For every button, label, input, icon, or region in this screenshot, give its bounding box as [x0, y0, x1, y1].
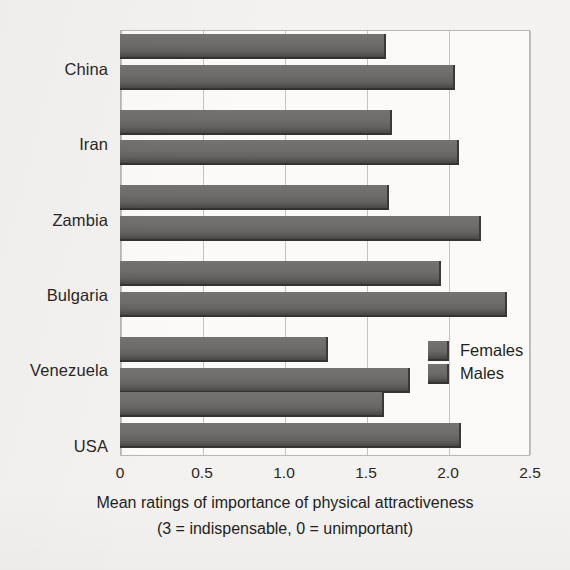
bar-iran-males [120, 140, 459, 165]
legend-label-females: Females [460, 341, 523, 360]
xtick-2-0: 2.0 [418, 464, 478, 482]
bar-venezuela-females [120, 337, 328, 362]
xtick-0-5: 0.5 [172, 464, 232, 482]
ylabel-usa: USA [74, 437, 108, 456]
bar-bulgaria-females [120, 261, 441, 286]
gridline-2-5 [530, 31, 531, 455]
legend: Females Males [428, 339, 523, 385]
bar-iran-females [120, 110, 392, 135]
ylabel-bulgaria: Bulgaria [47, 286, 108, 305]
xtick-0: 0 [90, 464, 150, 482]
legend-swatch-icon-females [428, 341, 449, 361]
bars-layer [120, 30, 530, 456]
legend-swatch-icon-males [428, 364, 449, 384]
bar-usa-males [120, 423, 461, 448]
legend-item-females: Females [428, 339, 523, 362]
bar-zambia-females [120, 185, 389, 210]
ylabel-iran: Iran [79, 135, 108, 154]
legend-label-males: Males [460, 364, 504, 383]
ylabel-china: China [64, 60, 108, 79]
bar-china-males [120, 65, 455, 90]
bar-bulgaria-males [120, 292, 507, 317]
xtick-1-0: 1.0 [254, 464, 314, 482]
x-axis-subtitle: (3 = indispensable, 0 = unimportant) [0, 520, 570, 538]
legend-item-males: Males [428, 362, 523, 385]
xtick-1-5: 1.5 [336, 464, 396, 482]
xtick-2-5: 2.5 [500, 464, 560, 482]
ylabel-zambia: Zambia [52, 211, 108, 230]
bar-chart: China Iran Zambia Bulgaria Venezuela USA… [0, 0, 570, 570]
ylabel-venezuela: Venezuela [30, 361, 108, 380]
bar-china-females [120, 34, 386, 59]
bar-usa-females [120, 392, 384, 417]
x-axis-title: Mean ratings of importance of physical a… [0, 494, 570, 512]
bar-venezuela-males [120, 368, 410, 393]
bar-zambia-males [120, 216, 481, 241]
